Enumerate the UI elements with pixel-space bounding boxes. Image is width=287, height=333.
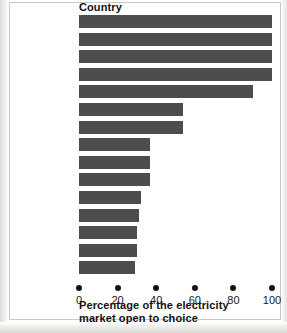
bar-greece (79, 209, 139, 222)
x-tick-dot (115, 285, 121, 291)
x-tick-label: 80 (218, 294, 248, 306)
x-tick-label: 40 (141, 294, 171, 306)
column-header-country: Country (79, 1, 122, 13)
x-tick-label: 100 (257, 294, 287, 306)
bar-portugal (79, 261, 135, 274)
bar-luxembourg (79, 121, 183, 134)
x-axis-title-line2: market open to choice (79, 312, 279, 325)
x-tick-label: 20 (103, 294, 133, 306)
bar-netherlands (79, 138, 150, 151)
bar-france (79, 244, 137, 257)
x-tick-label: 0 (64, 294, 94, 306)
x-tick-dot (192, 285, 198, 291)
x-tick-dot (269, 285, 275, 291)
bar-italy (79, 173, 150, 186)
bar-germany (79, 50, 272, 63)
bar-united-kingdom (79, 15, 272, 28)
bar-finland (79, 68, 272, 81)
bar-denmark (79, 85, 253, 98)
x-tick-dot (230, 285, 236, 291)
bar-belgium (79, 156, 150, 169)
bar-austria (79, 191, 141, 204)
bar-sweden (79, 33, 272, 46)
bar-chart-figure: Country Percentage of the electricity ma… (0, 0, 287, 333)
x-tick-dot (153, 285, 159, 291)
bar-spain (79, 103, 183, 116)
bar-ireland (79, 226, 137, 239)
x-tick-dot (76, 285, 82, 291)
plot-area: Country Percentage of the electricity ma… (0, 0, 287, 333)
x-tick-label: 60 (180, 294, 210, 306)
